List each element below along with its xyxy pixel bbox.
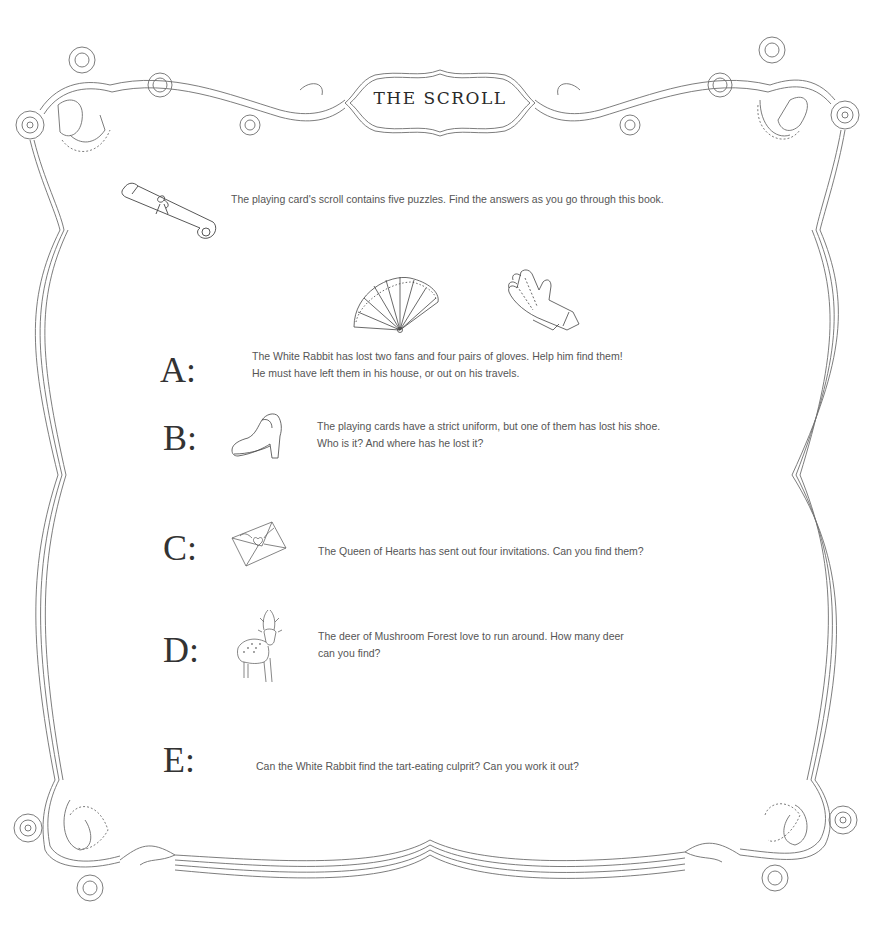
page-title: THE SCROLL <box>345 88 535 108</box>
frame-corner-bottom-left <box>14 780 175 901</box>
puzzle-e-text: Can the White Rabbit find the tart-eatin… <box>256 758 579 775</box>
puzzle-c-line-1: The Queen of Hearts has sent out four in… <box>318 543 644 560</box>
puzzle-b-line-2: Who is it? And where has he lost it? <box>317 435 660 452</box>
shoe-icon <box>228 410 290 462</box>
frame-corner-top-left <box>16 47 112 230</box>
puzzle-d-text: The deer of Mushroom Forest love to run … <box>318 628 624 662</box>
puzzle-a-letter: A: <box>160 352 196 388</box>
puzzle-a-text: The White Rabbit has lost two fans and f… <box>252 348 623 382</box>
puzzle-b-text: The playing cards have a strict uniform,… <box>317 418 660 452</box>
puzzle-b-letter: B: <box>163 420 197 456</box>
puzzle-d-letter: D: <box>163 632 199 668</box>
ornamental-frame <box>0 0 880 936</box>
intro-text: The playing card's scroll contains five … <box>231 193 664 205</box>
fan-icon <box>350 272 442 334</box>
puzzle-e-line-1: Can the White Rabbit find the tart-eatin… <box>256 758 579 775</box>
frame-right-side <box>792 230 838 780</box>
frame-left-side <box>35 230 68 780</box>
puzzle-c-letter: C: <box>163 530 197 566</box>
scroll-icon <box>118 180 224 242</box>
gloves-icon <box>503 266 583 336</box>
puzzle-a-line-2: He must have left them in his house, or … <box>252 365 623 382</box>
puzzle-d-line-2: can you find? <box>318 645 624 662</box>
puzzle-d-line-1: The deer of Mushroom Forest love to run … <box>318 628 624 645</box>
puzzle-e-letter: E: <box>163 742 195 778</box>
envelope-icon <box>228 518 292 570</box>
frame-bottom-edge <box>175 840 685 878</box>
scroll-page: THE SCROLL The playing card's scroll con… <box>0 0 880 936</box>
puzzle-b-line-1: The playing cards have a strict uniform,… <box>317 418 660 435</box>
frame-corner-bottom-right <box>685 780 857 891</box>
frame-corner-top-right <box>758 37 859 230</box>
deer-icon <box>234 608 286 686</box>
puzzle-a-line-1: The White Rabbit has lost two fans and f… <box>252 348 623 365</box>
puzzle-c-text: The Queen of Hearts has sent out four in… <box>318 543 644 560</box>
